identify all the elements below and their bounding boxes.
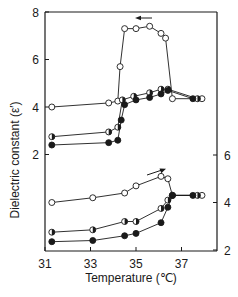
x-tick-label: 35	[129, 257, 143, 271]
filled-circle-marker	[190, 96, 196, 102]
heating-arrow-head-icon	[160, 168, 167, 173]
open-circle-marker	[163, 35, 169, 41]
filled-circle-marker	[122, 102, 128, 108]
half-filled-circle-marker	[122, 219, 128, 225]
right-y-tick-label: 6	[224, 149, 231, 163]
filled-circle-marker	[147, 95, 153, 101]
open-circle-marker	[165, 176, 171, 182]
open-circle-marker	[158, 173, 164, 179]
data-series	[49, 23, 205, 244]
y-axis-title: Dielectric constant (ε′)	[8, 102, 22, 219]
filled-circle-marker	[49, 142, 55, 148]
cooling-arrow-head-icon	[135, 16, 141, 20]
open-circle-marker	[133, 26, 139, 32]
plot-frame	[45, 12, 217, 251]
filled-circle-marker	[158, 220, 164, 226]
open-circle-marker	[122, 190, 128, 196]
x-axis-title: Temperature (℃)	[85, 271, 177, 285]
open-circle-marker	[117, 64, 123, 70]
heating-half-filled-circle-line	[52, 195, 198, 232]
open-circle-marker	[90, 195, 96, 201]
right-y-tick-label: 2	[224, 244, 231, 258]
filled-circle-marker	[115, 137, 121, 143]
half-filled-circle-marker	[49, 134, 55, 140]
half-filled-circle-marker	[133, 219, 139, 225]
x-tick-label: 33	[84, 257, 98, 271]
filled-circle-marker	[165, 87, 171, 93]
heating-open-circle-line	[52, 176, 202, 202]
open-circle-marker	[106, 100, 112, 106]
filled-circle-marker	[190, 192, 196, 198]
cooling-half-filled-circle-line	[52, 89, 198, 137]
dielectric-constant-chart: 313335372468246 Dielectric constant (ε′)…	[0, 0, 238, 297]
left-y-tick-label: 6	[32, 53, 39, 67]
half-filled-circle-marker	[90, 227, 96, 233]
left-y-tick-label: 2	[32, 148, 39, 162]
half-filled-circle-marker	[49, 229, 55, 235]
left-y-tick-label: 8	[32, 6, 39, 20]
filled-circle-marker	[133, 97, 139, 103]
cooling-open-circle-line	[52, 26, 202, 107]
half-filled-circle-marker	[158, 205, 164, 211]
filled-circle-marker	[106, 140, 112, 146]
filled-circle-marker	[169, 192, 175, 198]
x-tick-label: 37	[175, 257, 189, 271]
right-y-tick-label: 4	[224, 196, 231, 210]
open-circle-marker	[147, 23, 153, 29]
filled-circle-marker	[90, 238, 96, 244]
half-filled-circle-marker	[106, 129, 112, 135]
open-circle-marker	[169, 96, 175, 102]
filled-circle-marker	[118, 117, 124, 123]
filled-circle-marker	[165, 204, 171, 210]
open-circle-marker	[122, 26, 128, 32]
filled-circle-marker	[133, 230, 139, 236]
open-circle-marker	[158, 30, 164, 36]
open-circle-marker	[133, 183, 139, 189]
open-circle-marker	[49, 104, 55, 110]
filled-circle-marker	[122, 233, 128, 239]
x-tick-label: 31	[38, 257, 52, 271]
filled-circle-marker	[158, 91, 164, 97]
open-circle-marker	[49, 200, 55, 206]
filled-circle-marker	[49, 239, 55, 245]
left-y-tick-label: 4	[32, 101, 39, 115]
